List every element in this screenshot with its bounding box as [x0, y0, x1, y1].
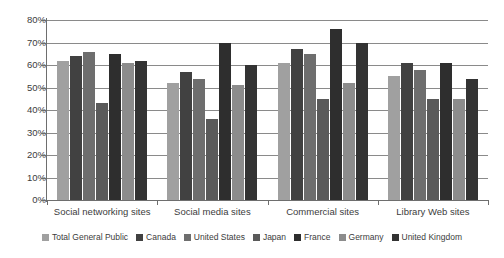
legend-item[interactable]: Germany	[339, 232, 384, 242]
bar	[96, 103, 108, 200]
bar	[167, 83, 179, 200]
y-tick-label: 10%	[6, 173, 46, 183]
bar	[304, 54, 316, 200]
y-axis-line	[46, 18, 47, 202]
bar	[317, 99, 329, 200]
x-axis-category-label: Social networking sites	[47, 206, 157, 217]
bar	[70, 56, 82, 200]
legend-swatch-icon	[294, 234, 301, 241]
bar	[232, 85, 244, 200]
y-axis-labels: 80%70%60%50%40%30%20%10%0%	[0, 0, 46, 258]
bar	[278, 63, 290, 200]
chart-legend: Total General PublicCanadaUnited StatesJ…	[0, 232, 504, 242]
y-tick-label: 30%	[6, 128, 46, 138]
bar	[440, 63, 452, 200]
legend-swatch-icon	[184, 234, 191, 241]
bar	[388, 76, 400, 200]
y-tick-label: 20%	[6, 150, 46, 160]
legend-label: France	[304, 232, 330, 242]
x-tick-mark	[378, 200, 379, 205]
legend-swatch-icon	[392, 234, 399, 241]
bar	[356, 43, 368, 201]
bar	[180, 72, 192, 200]
y-tick-label: 60%	[6, 60, 46, 70]
bar	[291, 49, 303, 200]
y-tick-label: 40%	[6, 105, 46, 115]
x-axis-category-label: Social media sites	[157, 206, 267, 217]
bar-groups	[47, 20, 488, 200]
bar	[135, 61, 147, 201]
bar	[343, 83, 355, 200]
x-axis-category-label: Library Web sites	[378, 206, 488, 217]
y-tick-label: 70%	[6, 38, 46, 48]
x-tick-mark	[268, 200, 269, 205]
bar	[427, 99, 439, 200]
bar-chart: 80%70%60%50%40%30%20%10%0% Social networ…	[0, 0, 504, 258]
legend-label: Germany	[349, 232, 384, 242]
x-axis-labels: Social networking sitesSocial media site…	[47, 206, 488, 217]
legend-item[interactable]: France	[294, 232, 330, 242]
bar-group	[47, 20, 157, 200]
bar	[330, 29, 342, 200]
bar	[401, 63, 413, 200]
bar	[83, 52, 95, 201]
y-tick-label: 50%	[6, 83, 46, 93]
y-tick-label: 0%	[6, 195, 46, 205]
legend-item[interactable]: Total General Public	[42, 232, 128, 242]
legend-item[interactable]: United Kingdom	[392, 232, 462, 242]
legend-label: United States	[194, 232, 245, 242]
bar	[193, 79, 205, 201]
bar	[57, 61, 69, 201]
bar	[466, 79, 478, 201]
x-tick-mark	[47, 200, 48, 205]
legend-item[interactable]: United States	[184, 232, 245, 242]
legend-item[interactable]: Japan	[253, 232, 286, 242]
plot-area	[47, 20, 488, 200]
bar	[206, 119, 218, 200]
bar	[109, 54, 121, 200]
bar-group	[157, 20, 267, 200]
legend-swatch-icon	[42, 234, 49, 241]
bar	[414, 70, 426, 201]
legend-swatch-icon	[136, 234, 143, 241]
legend-label: Total General Public	[52, 232, 128, 242]
y-tick-label: 80%	[6, 15, 46, 25]
bar	[245, 65, 257, 200]
legend-label: Canada	[146, 232, 176, 242]
legend-swatch-icon	[339, 234, 346, 241]
x-tick-mark	[488, 200, 489, 205]
bar-group	[268, 20, 378, 200]
legend-swatch-icon	[253, 234, 260, 241]
bar-group	[378, 20, 488, 200]
bar	[453, 99, 465, 200]
legend-item[interactable]: Canada	[136, 232, 176, 242]
x-axis-category-label: Commercial sites	[268, 206, 378, 217]
bar	[122, 63, 134, 200]
legend-label: Japan	[263, 232, 286, 242]
legend-label: United Kingdom	[402, 232, 462, 242]
x-tick-mark	[157, 200, 158, 205]
bar	[219, 43, 231, 201]
